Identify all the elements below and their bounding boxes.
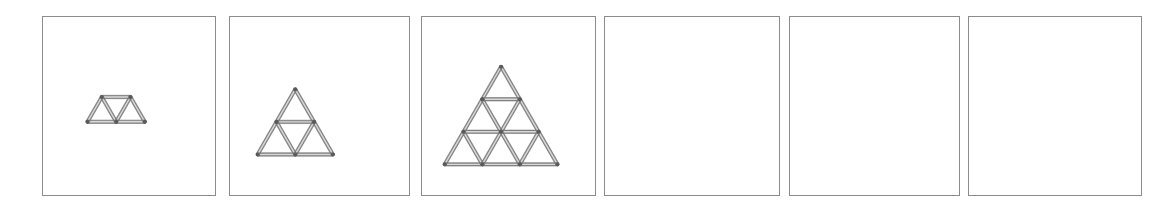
- matchstick-highlight: [130, 97, 144, 122]
- matchstick-outline: [129, 98, 143, 123]
- matchstick-outline: [518, 100, 537, 133]
- matchstick-highlight: [520, 99, 539, 132]
- matchstick-outline: [462, 133, 481, 166]
- matchstick-highlight: [276, 122, 295, 155]
- matchstick-joint: [518, 97, 522, 101]
- panel-5-figure: [790, 17, 959, 195]
- panel-4-figure: [605, 17, 779, 195]
- matchstick-highlight: [520, 132, 539, 165]
- matchstick-outline: [278, 90, 297, 123]
- matchstick-outline: [503, 100, 522, 133]
- matchstick-joint: [128, 95, 132, 99]
- panel-1[interactable]: [42, 16, 216, 196]
- matchstick-joint: [85, 120, 89, 124]
- matchstick-highlight: [482, 132, 501, 165]
- matchstick-outline: [278, 121, 297, 154]
- matchstick-outlines: [443, 66, 559, 166]
- matchstick-joint: [312, 120, 316, 124]
- matchstick-outline: [462, 98, 481, 131]
- matchstick-highlight: [464, 99, 483, 132]
- matchstick-highlight: [102, 97, 116, 122]
- matchstick-outline: [481, 131, 500, 164]
- matchstick-outline: [316, 121, 335, 154]
- matchstick-joint: [461, 130, 465, 134]
- matchstick-outline: [465, 131, 484, 164]
- matchstick-highlight: [295, 89, 314, 122]
- panel-3-figure: [422, 17, 595, 195]
- matchstick-outline: [503, 66, 522, 99]
- matchstick-joint: [537, 130, 541, 134]
- matchstick-outline: [484, 98, 503, 131]
- matchstick-outline: [503, 131, 522, 164]
- matchstick-outline: [294, 90, 313, 123]
- matchstick-outline: [297, 89, 316, 122]
- matchstick-outline: [465, 100, 484, 133]
- matchstick-highlight: [482, 67, 501, 100]
- panel-5[interactable]: [789, 16, 960, 196]
- matchstick-outline: [275, 89, 294, 122]
- matchstick-joint: [256, 152, 260, 156]
- matchstick-outline: [115, 96, 129, 121]
- matchstick-highlight: [482, 99, 501, 132]
- matchstick-joints: [443, 65, 560, 167]
- panel-2-figure: [230, 17, 409, 195]
- matchstick-outline: [540, 131, 559, 164]
- matchstick-joint: [100, 95, 104, 99]
- matchstick-outline: [443, 131, 462, 164]
- matchstick-outline: [118, 98, 132, 123]
- matchstick-outline: [297, 123, 316, 156]
- matchstick-highlight: [501, 99, 520, 132]
- panel-6[interactable]: [968, 16, 1142, 196]
- matchstick-joint: [293, 87, 297, 91]
- matchstick-outline: [446, 133, 465, 166]
- matchstick-joint: [443, 162, 447, 166]
- matchstick-outline: [500, 133, 519, 166]
- panel-3[interactable]: [421, 16, 596, 196]
- panel-4[interactable]: [604, 16, 780, 196]
- matchstick-highlight: [445, 132, 464, 165]
- matchstick-outline: [500, 98, 519, 131]
- matchstick-joint: [480, 162, 484, 166]
- matchstick-outline: [518, 131, 537, 164]
- matchstick-highlight: [87, 97, 101, 122]
- panel-1-figure: [43, 17, 215, 195]
- matchstick-outline: [294, 121, 313, 154]
- matchstick-outline: [86, 96, 100, 121]
- matchstick-outline: [100, 98, 114, 123]
- matchstick-outline: [89, 98, 103, 123]
- matchstick-outline: [259, 123, 278, 156]
- matchstick-highlight: [501, 132, 520, 165]
- matchstick-highlight: [501, 67, 520, 100]
- matchstick-outline: [481, 66, 500, 99]
- matchstick-joint: [518, 162, 522, 166]
- matchstick-highlights: [258, 89, 333, 154]
- matchstick-highlight: [258, 122, 277, 155]
- matchstick-joint: [293, 152, 297, 156]
- matchstick-joint: [143, 120, 147, 124]
- matchstick-highlight: [276, 89, 295, 122]
- matchstick-joint: [274, 120, 278, 124]
- matchstick-sequence-page: [0, 0, 1173, 207]
- matchstick-outline: [521, 133, 540, 166]
- matchstick-joint: [499, 65, 503, 69]
- matchstick-outline: [481, 100, 500, 133]
- matchstick-highlight: [464, 132, 483, 165]
- matchstick-outline: [484, 133, 503, 166]
- matchstick-highlight: [116, 97, 130, 122]
- matchstick-outline: [313, 123, 332, 156]
- matchstick-outline: [132, 96, 146, 121]
- matchstick-outline: [500, 68, 519, 101]
- matchstick-highlights: [445, 67, 558, 165]
- matchstick-outline: [521, 98, 540, 131]
- panel-2[interactable]: [229, 16, 410, 196]
- matchstick-highlight: [539, 132, 558, 165]
- matchstick-outline: [537, 133, 556, 166]
- matchstick-joint: [555, 162, 559, 166]
- matchstick-highlight: [314, 122, 333, 155]
- matchstick-joint: [480, 97, 484, 101]
- matchstick-joint: [499, 130, 503, 134]
- matchstick-joint: [114, 120, 118, 124]
- matchstick-joint: [331, 152, 335, 156]
- matchstick-highlight: [295, 122, 314, 155]
- matchstick-outline: [275, 123, 294, 156]
